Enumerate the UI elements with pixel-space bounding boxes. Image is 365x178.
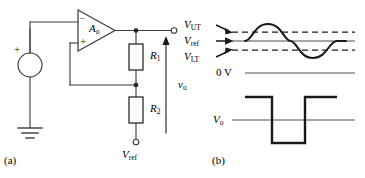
opamp-inverting-input-label: – xyxy=(80,13,85,22)
panel-b-waveforms xyxy=(216,24,355,143)
vref-level-subscript: ref xyxy=(191,39,199,48)
opamp-gain-label: Ao xyxy=(89,23,99,35)
resistor-r1 xyxy=(129,44,143,70)
resistor-r2 xyxy=(129,97,143,123)
resistor-r2-subscript: 2 xyxy=(157,107,161,116)
vlt-level-label: VLT xyxy=(184,51,199,63)
opamp-gain-subscript: o xyxy=(96,27,100,36)
zero-volt-label: 0 V xyxy=(216,67,232,78)
output-voltage-label: vo xyxy=(178,79,187,91)
arrow-head-vref xyxy=(225,37,234,45)
vref-terminal-subscript: ref xyxy=(129,153,137,162)
resistor-r2-label: R2 xyxy=(150,103,160,115)
vlt-level-subscript: LT xyxy=(191,55,199,64)
vref-terminal-label: Vref xyxy=(122,149,137,161)
vo-waveform-label: Vo xyxy=(213,114,223,126)
resistor-r1-subscript: 1 xyxy=(157,54,161,63)
panel-b-caption: (b) xyxy=(212,155,225,166)
vo-arrow-head xyxy=(162,36,169,45)
comparator-figure: Ao – + + R1 R2 Vref vo (a) VUT Vref VLT … xyxy=(0,0,365,178)
panel-a-caption: (a) xyxy=(4,155,16,166)
arrow-head-vut xyxy=(225,28,234,35)
output-voltage-subscript: o xyxy=(183,83,187,92)
vut-level-label: VUT xyxy=(184,19,201,31)
resistor-r1-label: R1 xyxy=(150,50,160,62)
vo-waveform-subscript: o xyxy=(220,118,224,127)
terminal-vref xyxy=(133,139,139,145)
vut-level-subscript: UT xyxy=(191,23,201,32)
vref-level-label: Vref xyxy=(184,35,199,47)
opamp-noninverting-input-label: + xyxy=(80,36,86,47)
ac-source-icon xyxy=(18,53,42,77)
source-polarity-label: + xyxy=(14,44,20,55)
arrow-head-vlt xyxy=(225,47,234,54)
terminal-output xyxy=(171,28,177,34)
